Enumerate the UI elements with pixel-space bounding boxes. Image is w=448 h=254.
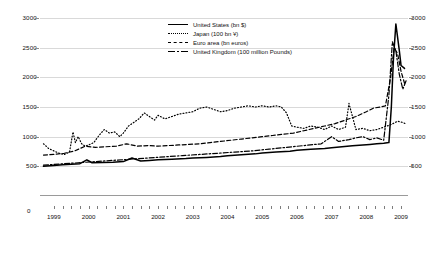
x-axis-minor-tick	[210, 206, 211, 209]
x-axis-minor-tick	[271, 206, 272, 209]
x-axis-minor-tick	[297, 206, 298, 209]
series-line-japan-100-bn	[43, 103, 406, 154]
x-axis-minor-tick	[236, 206, 237, 209]
x-axis-minor-tick	[123, 206, 124, 209]
y-axis-left-tick-1500	[35, 107, 39, 108]
x-axis-minor-tick	[115, 206, 116, 209]
x-axis-label-1999: 1999	[47, 214, 61, 220]
y-axis-right-label-3000: 3000	[411, 15, 426, 21]
legend-line-dashed-icon	[168, 39, 188, 47]
y-axis-right-label-1000: 1000	[411, 134, 426, 140]
x-axis-minor-tick	[245, 206, 246, 209]
y-axis-left-tick-2500	[35, 48, 39, 49]
x-axis-label-2003: 2003	[186, 214, 200, 220]
x-axis-minor-tick	[106, 206, 107, 209]
y-axis-zero-label: 0	[27, 208, 30, 214]
x-axis-label-2004: 2004	[221, 214, 235, 220]
x-axis-minor-tick	[314, 206, 315, 209]
y-axis-right-tick-1000	[409, 137, 413, 138]
x-axis-minor-tick	[80, 206, 81, 209]
legend-line-solid-icon	[168, 21, 188, 29]
legend: United States (bn $) Japan (100 bn ¥) Eu…	[168, 20, 344, 56]
x-axis-minor-tick	[358, 206, 359, 209]
chart-container: 3000 2500 2000 1500 1000 500 3000 2500 2…	[0, 0, 448, 254]
x-axis-minor-tick	[167, 206, 168, 209]
x-axis: 1999200020012002200320042005200620072008…	[40, 206, 408, 226]
x-axis-minor-tick	[193, 206, 194, 209]
x-axis-label-2005: 2005	[255, 214, 269, 220]
x-axis-minor-tick	[227, 206, 228, 209]
x-axis-minor-tick	[149, 206, 150, 209]
legend-label-united-kingdom: United Kingdom (100 million Pounds)	[193, 49, 292, 55]
x-axis-minor-tick	[97, 206, 98, 209]
x-axis-label-2006: 2006	[290, 214, 304, 220]
y-axis-left-tick-3000	[35, 18, 39, 19]
y-axis-right-tick-500	[409, 166, 413, 167]
x-axis-minor-tick	[71, 206, 72, 209]
x-axis-minor-tick	[288, 206, 289, 209]
y-axis-right-label-1500: 1500	[411, 104, 426, 110]
y-axis-right-tick-2500	[409, 48, 413, 49]
x-axis-minor-tick	[141, 206, 142, 209]
x-axis-minor-tick	[219, 206, 220, 209]
y-axis-left-tick-2000	[35, 77, 39, 78]
x-axis-minor-tick	[340, 206, 341, 209]
x-axis-label-2009: 2009	[394, 214, 408, 220]
x-axis-minor-tick	[175, 206, 176, 209]
legend-line-dotted-icon	[168, 30, 188, 38]
y-axis-right-label-2500: 2500	[411, 45, 426, 51]
legend-label-japan: Japan (100 bn ¥)	[193, 31, 238, 37]
legend-item-euro-area[interactable]: Euro area (bn euros)	[168, 38, 344, 47]
legend-label-euro-area: Euro area (bn euros)	[193, 40, 248, 46]
x-axis-minor-tick	[323, 206, 324, 209]
x-axis-minor-tick	[254, 206, 255, 209]
x-axis-label-2008: 2008	[359, 214, 373, 220]
x-axis-minor-tick	[63, 206, 64, 209]
x-axis-minor-tick	[349, 206, 350, 209]
x-axis-label-2007: 2007	[325, 214, 339, 220]
legend-label-united-states: United States (bn $)	[193, 22, 246, 28]
x-axis-minor-tick	[262, 206, 263, 209]
x-axis-label-2001: 2001	[116, 214, 130, 220]
x-axis-minor-tick	[401, 206, 402, 209]
y-axis-right-tick-1500	[409, 107, 413, 108]
legend-item-united-kingdom[interactable]: United Kingdom (100 million Pounds)	[168, 47, 344, 56]
y-axis-right-tick-3000	[409, 18, 413, 19]
y-axis-right-tick-2000	[409, 77, 413, 78]
x-axis-minor-tick	[384, 206, 385, 209]
x-axis-minor-tick	[366, 206, 367, 209]
x-axis-minor-tick	[184, 206, 185, 209]
legend-item-united-states[interactable]: United States (bn $)	[168, 20, 344, 29]
legend-item-japan[interactable]: Japan (100 bn ¥)	[168, 29, 344, 38]
x-axis-minor-tick	[306, 206, 307, 209]
x-axis-minor-tick	[375, 206, 376, 209]
x-axis-minor-tick	[332, 206, 333, 209]
x-axis-minor-tick	[54, 206, 55, 209]
x-axis-label-2002: 2002	[151, 214, 165, 220]
y-axis-left-tick-1000	[35, 137, 39, 138]
y-axis-right-label-2000: 2000	[411, 74, 426, 80]
legend-line-dashdot-icon	[168, 48, 188, 56]
x-axis-minor-tick	[201, 206, 202, 209]
x-axis-minor-tick	[132, 206, 133, 209]
x-axis-minor-tick	[158, 206, 159, 209]
x-axis-minor-tick	[392, 206, 393, 209]
x-axis-minor-tick	[89, 206, 90, 209]
x-axis-label-2000: 2000	[82, 214, 96, 220]
x-axis-minor-tick	[280, 206, 281, 209]
y-axis-left-tick-500	[35, 166, 39, 167]
